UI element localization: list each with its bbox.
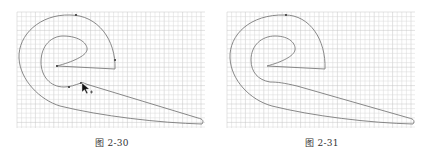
figure-2-31: 图 2-31 [0, 0, 215, 158]
grid [227, 12, 415, 128]
figure-2-31-caption: 图 2-31 [272, 136, 372, 149]
hook-curve-path [230, 15, 414, 124]
anchor-point [285, 14, 287, 16]
figure-2-31-drawing [0, 0, 430, 158]
